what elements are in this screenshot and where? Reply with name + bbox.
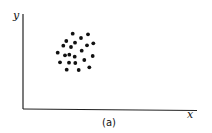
data-point bbox=[79, 36, 83, 40]
scatter-diagram bbox=[0, 0, 212, 133]
data-point bbox=[69, 45, 73, 49]
data-point bbox=[86, 32, 90, 36]
data-points bbox=[56, 32, 95, 72]
data-point bbox=[87, 65, 91, 69]
data-point bbox=[67, 53, 71, 57]
data-point bbox=[71, 32, 75, 36]
data-point bbox=[77, 68, 81, 72]
x-axis-label: x bbox=[187, 108, 193, 121]
data-point bbox=[73, 41, 77, 45]
x-axis bbox=[23, 109, 197, 111]
data-point bbox=[67, 61, 71, 65]
data-point bbox=[58, 60, 62, 64]
data-point bbox=[56, 51, 60, 55]
data-point bbox=[65, 68, 69, 72]
data-point bbox=[80, 49, 84, 53]
data-point bbox=[85, 43, 89, 47]
figure-caption: (a) bbox=[102, 117, 116, 128]
data-point bbox=[64, 39, 68, 43]
data-point bbox=[73, 61, 77, 65]
data-point bbox=[61, 44, 65, 48]
data-point bbox=[91, 41, 95, 45]
data-point bbox=[82, 58, 86, 62]
y-axis-label: y bbox=[13, 9, 19, 22]
data-point bbox=[73, 55, 77, 59]
data-point bbox=[63, 53, 67, 57]
data-point bbox=[91, 54, 95, 58]
